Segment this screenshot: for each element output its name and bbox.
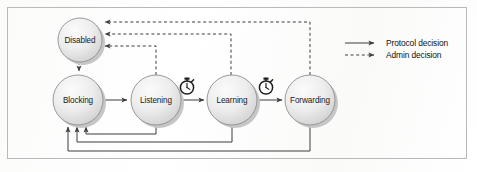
state-diagram: Disabled Blocking Listening Learning — [0, 0, 477, 172]
node-forwarding-label: Forwarding — [290, 96, 331, 105]
edge-listening-to-disabled — [105, 46, 156, 75]
protocol-return-edges — [68, 125, 310, 151]
figure-canvas: Disabled Blocking Listening Learning — [0, 0, 477, 172]
legend-item-admin: Admin decision — [345, 50, 442, 60]
legend-admin-label: Admin decision — [386, 50, 442, 60]
edge-learning-to-disabled — [105, 34, 231, 75]
node-listening[interactable]: Listening — [131, 75, 184, 128]
node-blocking[interactable]: Blocking — [53, 75, 106, 128]
legend-protocol-label: Protocol decision — [386, 38, 449, 48]
stopwatch-icon — [259, 77, 272, 94]
state-nodes: Disabled Blocking Listening Learning — [53, 18, 338, 128]
node-listening-label: Listening — [140, 96, 172, 105]
node-learning[interactable]: Learning — [207, 75, 260, 128]
edge-forwarding-to-disabled — [105, 22, 310, 75]
node-disabled[interactable]: Disabled — [58, 18, 105, 65]
node-forwarding[interactable]: Forwarding — [285, 75, 338, 128]
edge-listening-to-blocking — [86, 125, 156, 134]
stopwatch-icon — [180, 77, 193, 94]
node-blocking-label: Blocking — [63, 96, 94, 105]
node-disabled-label: Disabled — [64, 36, 96, 45]
edge-forwarding-to-blocking — [68, 125, 310, 151]
node-learning-label: Learning — [216, 96, 248, 105]
legend: Protocol decision Admin decision — [345, 38, 449, 60]
legend-item-protocol: Protocol decision — [345, 38, 449, 48]
admin-edges — [79, 22, 310, 75]
